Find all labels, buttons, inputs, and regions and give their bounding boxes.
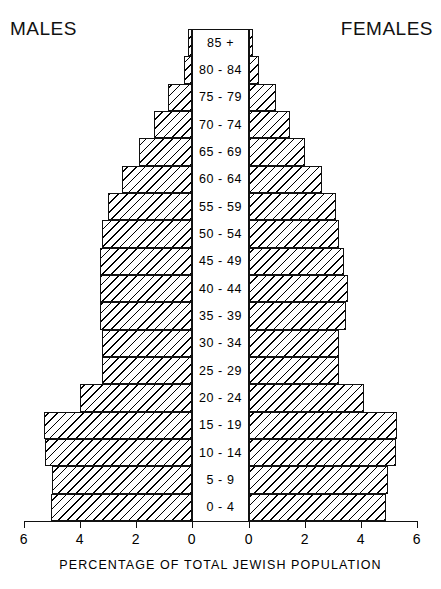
- male-bar: [139, 138, 192, 165]
- male-bar: [45, 439, 192, 466]
- age-group-cell: 75 - 79: [192, 84, 249, 111]
- age-group-label: 45 - 49: [199, 254, 242, 268]
- x-axis-tick-label: 6: [413, 531, 421, 547]
- pyramid-row: 25 - 29: [0, 357, 441, 384]
- age-group-cell: 65 - 69: [192, 138, 249, 165]
- female-bar: [249, 412, 397, 439]
- x-axis-line: [24, 521, 417, 522]
- male-bar: [100, 275, 192, 302]
- age-group-label: 85 +: [207, 36, 234, 50]
- age-group-cell: 35 - 39: [192, 302, 249, 329]
- age-group-label: 50 - 54: [199, 227, 242, 241]
- age-group-label: 30 - 34: [199, 336, 242, 350]
- age-group-cell: 0 - 4: [192, 494, 249, 521]
- male-bar: [154, 111, 192, 138]
- pyramid-row: 60 - 64: [0, 166, 441, 193]
- male-bar: [184, 56, 192, 83]
- pyramid-row: 70 - 74: [0, 111, 441, 138]
- age-group-cell: 10 - 14: [192, 439, 249, 466]
- age-group-label: 75 - 79: [199, 90, 242, 104]
- age-group-label: 70 - 74: [199, 118, 242, 132]
- age-group-cell: 40 - 44: [192, 275, 249, 302]
- age-group-cell: 30 - 34: [192, 330, 249, 357]
- x-axis-title: PERCENTAGE OF TOTAL JEWISH POPULATION: [0, 558, 441, 572]
- female-bar: [249, 220, 339, 247]
- pyramid-row: 75 - 79: [0, 84, 441, 111]
- age-group-label: 15 - 19: [199, 418, 242, 432]
- age-group-label: 80 - 84: [199, 63, 242, 77]
- x-axis: 64200246: [0, 521, 441, 551]
- age-group-label: 0 - 4: [206, 500, 234, 514]
- female-bar: [249, 384, 364, 411]
- pyramid-plot-area: 85 +80 - 8475 - 7970 - 7465 - 6960 - 645…: [0, 29, 441, 521]
- pyramid-row: 5 - 9: [0, 466, 441, 493]
- male-bar: [80, 384, 192, 411]
- x-axis-tick: [305, 521, 306, 528]
- x-axis-tick-label: 2: [301, 531, 309, 547]
- x-axis-tick: [24, 521, 25, 528]
- male-bar: [100, 248, 192, 275]
- x-axis-tick: [417, 521, 418, 528]
- age-group-cell: 20 - 24: [192, 384, 249, 411]
- female-bar: [249, 29, 253, 56]
- pyramid-row: 35 - 39: [0, 302, 441, 329]
- male-bar: [122, 166, 192, 193]
- age-group-cell: 25 - 29: [192, 357, 249, 384]
- female-bar: [249, 166, 322, 193]
- pyramid-row: 0 - 4: [0, 494, 441, 521]
- pyramid-row: 15 - 19: [0, 412, 441, 439]
- age-group-label: 65 - 69: [199, 145, 242, 159]
- x-axis-tick: [192, 521, 193, 528]
- male-bar: [108, 193, 192, 220]
- age-group-label: 35 - 39: [199, 309, 242, 323]
- pyramid-row: 45 - 49: [0, 248, 441, 275]
- x-axis-tick: [80, 521, 81, 528]
- pyramid-row: 20 - 24: [0, 384, 441, 411]
- pyramid-row: 50 - 54: [0, 220, 441, 247]
- pyramid-row: 10 - 14: [0, 439, 441, 466]
- female-bar: [249, 302, 346, 329]
- age-group-cell: 50 - 54: [192, 220, 249, 247]
- female-bar: [249, 275, 348, 302]
- male-bar: [44, 412, 192, 439]
- pyramid-row: 80 - 84: [0, 56, 441, 83]
- female-bar: [249, 357, 339, 384]
- pyramid-row: 30 - 34: [0, 330, 441, 357]
- pyramid-row: 85 +: [0, 29, 441, 56]
- pyramid-row: 65 - 69: [0, 138, 441, 165]
- female-bar: [249, 193, 336, 220]
- age-group-cell: 45 - 49: [192, 248, 249, 275]
- age-group-label: 55 - 59: [199, 200, 242, 214]
- age-group-label: 25 - 29: [199, 364, 242, 378]
- female-bar: [249, 138, 305, 165]
- x-axis-tick-label: 4: [357, 531, 365, 547]
- age-group-label: 20 - 24: [199, 391, 242, 405]
- x-axis-tick: [136, 521, 137, 528]
- male-bar: [102, 357, 192, 384]
- female-bar: [249, 56, 259, 83]
- age-group-label: 10 - 14: [199, 446, 242, 460]
- female-bar: [249, 330, 339, 357]
- age-group-cell: 55 - 59: [192, 193, 249, 220]
- male-bar: [100, 302, 192, 329]
- x-axis-tick-label: 2: [132, 531, 140, 547]
- male-bar: [102, 330, 192, 357]
- male-bar: [52, 466, 192, 493]
- age-group-cell: 5 - 9: [192, 466, 249, 493]
- age-group-cell: 60 - 64: [192, 166, 249, 193]
- pyramid-top-border: [192, 29, 249, 30]
- x-axis-tick: [361, 521, 362, 528]
- x-axis-tick: [249, 521, 250, 528]
- female-bar: [249, 439, 396, 466]
- female-bar: [249, 494, 386, 521]
- x-axis-tick-label: 0: [188, 531, 196, 547]
- male-bar: [102, 220, 192, 247]
- x-axis-tick-label: 4: [76, 531, 84, 547]
- female-bar: [249, 111, 290, 138]
- x-axis-tick-label: 6: [20, 531, 28, 547]
- male-bar: [51, 494, 192, 521]
- pyramid-row: 40 - 44: [0, 275, 441, 302]
- age-group-cell: 15 - 19: [192, 412, 249, 439]
- population-pyramid-figure: MALES FEMALES 85 +80 - 8475 - 7970 - 746…: [0, 0, 441, 589]
- female-bar: [249, 466, 388, 493]
